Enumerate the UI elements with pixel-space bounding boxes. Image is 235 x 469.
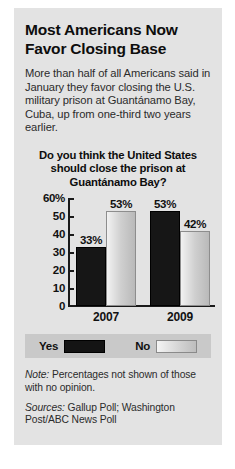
- bar-value-label: 53%: [110, 198, 132, 210]
- legend-swatch-yes: [64, 340, 105, 353]
- bar-value-label: 42%: [184, 218, 206, 230]
- bar-value-label: 33%: [80, 234, 102, 246]
- y-axis-tick-mark: [70, 288, 74, 290]
- summary-paragraph: More than half of all Americans said in …: [25, 58, 211, 135]
- bar-value-label: 53%: [154, 198, 176, 210]
- note-line: Note: Percentages not shown of those wit…: [25, 369, 211, 394]
- x-axis-labels: 20072009: [70, 310, 215, 328]
- y-axis-tick-mark: [70, 216, 74, 218]
- y-axis-labels: 0102030405060%: [25, 198, 65, 306]
- bar-group-container: 33%53%53%42%: [70, 198, 215, 306]
- legend-swatch-no: [156, 340, 197, 353]
- y-axis-tick-label: 40: [53, 228, 65, 240]
- y-axis-tick-mark: [70, 234, 74, 236]
- sources-label: Sources:: [25, 402, 65, 413]
- y-axis-tick-label: 50: [53, 210, 65, 222]
- legend-item-no: No: [135, 340, 197, 353]
- y-axis-tick-mark: [70, 198, 74, 200]
- page-title: Most Americans Now Favor Closing Base: [25, 8, 211, 58]
- legend-label-no: No: [135, 340, 150, 352]
- chart-title: Do you think the United States should cl…: [25, 135, 211, 189]
- y-axis-tick-label: 30: [53, 246, 65, 258]
- x-axis-tick-label: 2007: [93, 310, 119, 324]
- legend-label-yes: Yes: [39, 340, 58, 352]
- y-axis-tick-label: 60%: [43, 192, 65, 204]
- y-axis-tick-label: 10: [53, 282, 65, 294]
- footnotes: Note: Percentages not shown of those wit…: [25, 358, 211, 427]
- note-label: Note:: [25, 369, 49, 380]
- bar-chart: 0102030405060% 33%53%53%42% 20072009: [25, 198, 211, 328]
- chart-legend: Yes No: [25, 334, 211, 358]
- y-axis-tick-label: 0: [59, 300, 65, 312]
- note-text: Percentages not shown of those with no o…: [25, 369, 196, 392]
- bar-yes-2009: 53%: [150, 211, 180, 306]
- bar-yes-2007: 33%: [76, 247, 106, 306]
- y-axis-tick-mark: [70, 252, 74, 254]
- bar-no-2007: 53%: [106, 211, 136, 306]
- bar-no-2009: 42%: [180, 231, 210, 307]
- infographic-card: Most Americans Now Favor Closing Base Mo…: [14, 8, 222, 445]
- legend-item-yes: Yes: [39, 340, 105, 353]
- sources-line: Sources: Gallup Poll; Washington Post/AB…: [25, 394, 211, 427]
- y-axis-tick-label: 20: [53, 264, 65, 276]
- y-axis-tick-mark: [70, 270, 74, 272]
- x-axis-tick-label: 2009: [167, 310, 193, 324]
